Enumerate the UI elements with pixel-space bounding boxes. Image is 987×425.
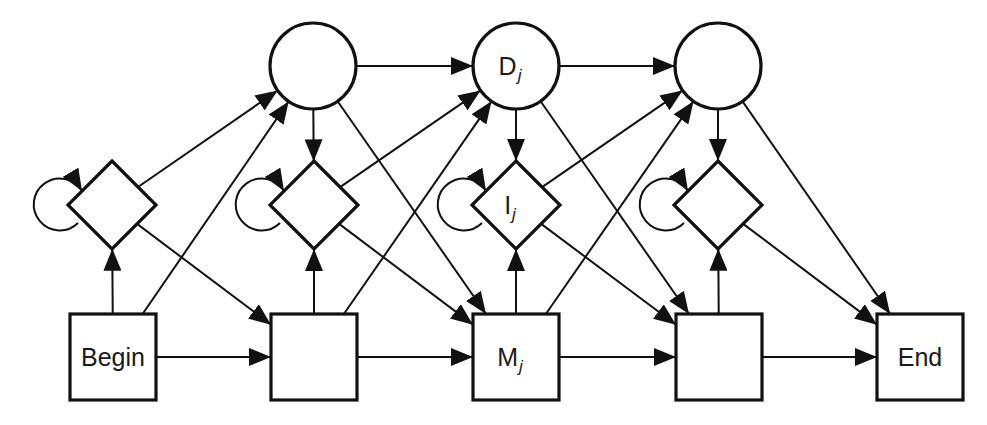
match-state-M3 [676,314,762,400]
insert-state-I1 [270,161,358,249]
states: DjIjBeginMjEnd [68,23,963,400]
state-label: End [898,343,942,371]
edge-I0-to-M1 [137,224,271,325]
insert-state-Ij: Ij [472,161,560,249]
match-state-Begin: Begin [70,314,156,400]
state-label: Begin [81,343,145,371]
edge-I1-to-Dj [340,90,481,187]
insert-state-I3 [674,161,762,249]
match-state-M1 [271,314,357,400]
delete-state-D1 [270,23,356,109]
edge-I3-to-End [743,224,877,325]
edge-I1-to-Mj [339,224,473,325]
edge-D3-to-End [743,101,891,314]
profile-hmm-diagram: DjIjBeginMjEnd [0,0,987,425]
match-state-Mj: Mj [473,314,559,400]
delete-state-D3 [675,23,761,109]
delete-state-Dj: Dj [473,23,559,109]
insert-state-I0 [68,161,156,249]
edge-Ij-to-D3 [542,90,683,187]
match-state-End: End [877,314,963,400]
edge-D1-to-Mj [338,101,486,314]
edge-Ij-to-M3 [541,224,676,325]
edge-I0-to-D1 [138,90,278,187]
edge-Dj-to-M3 [541,101,689,314]
